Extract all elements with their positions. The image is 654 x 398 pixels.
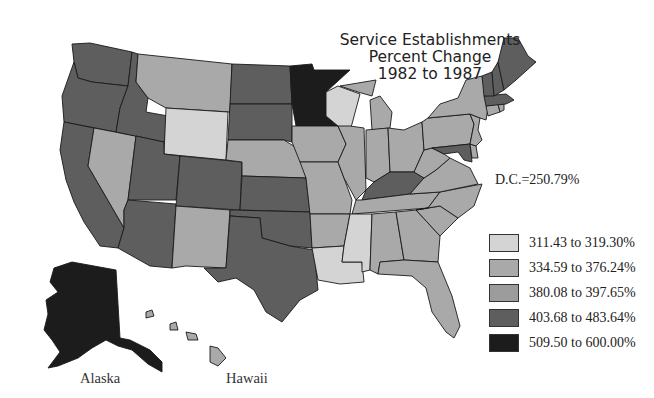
- state-colorado: [176, 156, 242, 210]
- legend-swatch: [489, 259, 519, 277]
- state-south-dakota: [228, 104, 292, 142]
- state-alaska: [44, 262, 162, 372]
- legend-label: 509.50 to 600.00%: [529, 335, 636, 351]
- legend-item: 311.43 to 319.30%: [489, 231, 636, 255]
- state-north-dakota: [230, 64, 292, 104]
- legend-item: 509.50 to 600.00%: [489, 331, 636, 355]
- state-florida: [378, 260, 460, 338]
- hawaii-label: Hawaii: [226, 370, 268, 387]
- state-iowa: [292, 126, 346, 162]
- legend: 311.43 to 319.30% 334.59 to 376.24% 380.…: [489, 231, 636, 356]
- state-arizona: [118, 200, 176, 268]
- title-line-2: Percent Change: [330, 49, 530, 66]
- title-line-1: Service Establishments: [330, 32, 530, 49]
- legend-label: 311.43 to 319.30%: [529, 235, 635, 251]
- state-wyoming: [164, 108, 228, 160]
- legend-item: 334.59 to 376.24%: [489, 256, 636, 280]
- legend-swatch: [489, 284, 519, 302]
- map-title: Service Establishments Percent Change 19…: [330, 32, 530, 83]
- legend-swatch: [489, 334, 519, 352]
- legend-item: 380.08 to 397.65%: [489, 281, 636, 305]
- legend-swatch: [489, 234, 519, 252]
- state-arkansas: [310, 214, 350, 248]
- legend-item: 403.68 to 483.64%: [489, 306, 636, 330]
- state-kansas: [240, 176, 310, 212]
- legend-label: 403.68 to 483.64%: [529, 310, 636, 326]
- state-montana: [136, 54, 232, 112]
- dc-note: D.C.=250.79%: [495, 172, 580, 188]
- state-new-mexico: [172, 206, 230, 268]
- legend-label: 380.08 to 397.65%: [529, 285, 636, 301]
- alaska-label: Alaska: [80, 370, 120, 387]
- legend-swatch: [489, 309, 519, 327]
- legend-label: 334.59 to 376.24%: [529, 260, 636, 276]
- title-line-3: 1982 to 1987: [330, 66, 530, 83]
